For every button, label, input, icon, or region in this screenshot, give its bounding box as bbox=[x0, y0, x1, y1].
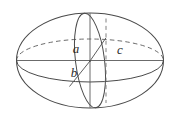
center-point bbox=[89, 60, 91, 62]
semi-axis-c-segment bbox=[90, 38, 106, 61]
label-semi-axis-b: b bbox=[71, 65, 78, 80]
ellipsoid-diagram-canvas: a b c bbox=[0, 0, 181, 116]
ellipsoid-figure: a b c bbox=[0, 0, 181, 116]
label-semi-axis-a: a bbox=[73, 41, 80, 56]
label-semi-axis-c: c bbox=[117, 42, 123, 57]
